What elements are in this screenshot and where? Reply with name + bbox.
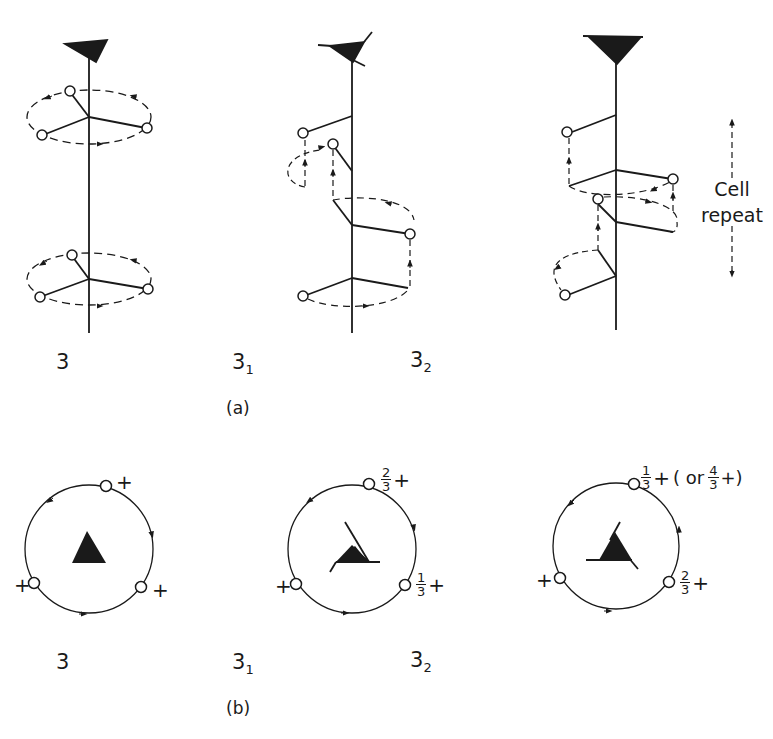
height-right: 23 + [680,569,709,596]
panel-a-3 [27,40,153,333]
atom-icon [298,291,308,301]
atom-icon [298,128,308,138]
height-left: + [14,573,31,597]
atom-icon [668,174,678,184]
label-sub: 1 [245,362,253,377]
atom-icon [629,479,640,490]
label-main: 3 [410,648,423,672]
atom-icon [664,577,675,588]
atom-icon [400,580,411,591]
atom-icon [143,284,153,294]
atom-icon [560,290,570,300]
triangle-screw-axis-symbol-icon [330,42,364,62]
height-left: + [536,568,553,592]
fraction: 13 [416,571,426,598]
atom-icon [67,250,77,260]
panel-a-label-3-2: 32 [410,350,432,374]
atom-icon [405,229,415,239]
diagram-canvas [0,0,773,739]
fraction: 23 [680,569,690,596]
cell-repeat-line1: Cell [697,176,767,202]
atom-icon [142,123,152,133]
cell-repeat-line2: repeat [697,202,767,228]
panel-b-3-1 [288,479,416,614]
label-main: 3 [232,350,245,374]
fraction: 13 [641,464,651,491]
fraction: 23 [381,466,391,493]
triangle-screw-axis-symbol-icon [599,532,632,560]
height-right: + [152,578,169,602]
atom-icon [328,139,338,149]
atom-icon [37,130,47,140]
label-main: 3 [232,650,245,674]
panel-a-label-3: 3 [56,352,69,376]
atom-icon [136,582,147,593]
height-top: 13 + ( or 43 +) [641,464,743,491]
height-top: + [116,470,133,494]
atom-icon [593,194,603,204]
cell-repeat-label: Cell repeat [697,176,767,228]
caption-a: (a) [226,398,250,418]
atom-icon [364,479,375,490]
label-sub: 1 [245,662,253,677]
atom-icon [555,573,566,584]
height-right: 13 + [416,571,445,598]
atom-icon [291,579,302,590]
triangle-axis-symbol-icon [72,531,106,563]
panel-b-3 [25,481,153,615]
panel-a-label-3-1: 31 [232,352,254,376]
label-main: 3 [56,350,69,374]
label-sub: 2 [423,660,431,675]
panel-b-label-3-1: 31 [232,652,254,676]
caption-b: (b) [226,698,250,718]
panel-b-label-3-2: 32 [410,650,432,674]
panel-b-3-2 [553,479,679,612]
label-main: 3 [56,650,69,674]
atom-icon [101,481,112,492]
label-sub: 2 [423,360,431,375]
height-left: + [275,574,292,598]
atom-icon [35,292,45,302]
fraction: 43 [708,464,718,491]
panel-a-3-1 [288,32,415,333]
triangle-axis-symbol-icon [65,40,107,62]
atom-icon [562,127,572,137]
atom-icon [65,86,75,96]
height-top: 23 + [381,466,410,493]
panel-b-label-3: 3 [56,652,69,676]
label-main: 3 [410,348,423,372]
triangle-screw-axis-symbol-icon [590,38,640,64]
